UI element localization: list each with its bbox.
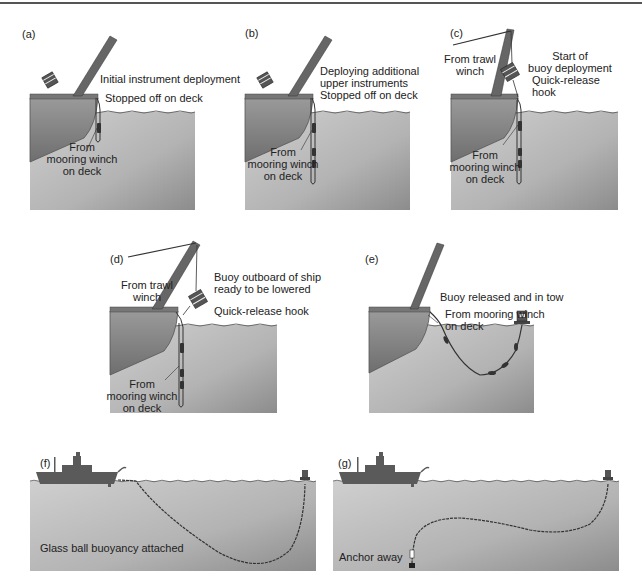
annotation-from-mooring-winch: From mooring winch on deck <box>42 141 122 177</box>
annotation-from-mooring-winch: From mooring winch on deck <box>245 146 321 182</box>
annotation-quick-release-hook: Quick-release hook <box>532 74 600 98</box>
buoy-on-deck-icon <box>42 72 58 88</box>
water <box>30 481 316 571</box>
panel-d: (d) From trawl winch Buoy outboard of sh… <box>100 215 340 410</box>
annotation-from-mooring-winch: From mooring winch on deck <box>102 378 182 414</box>
panel-label: (g) <box>338 457 351 469</box>
a-frame <box>410 243 444 309</box>
caption-glass-ball-buoyancy: Glass ball buoyancy attached <box>40 542 184 554</box>
annotation-start-buoy-deployment: Start of buoy deployment <box>525 50 615 74</box>
ship-deck <box>451 94 518 99</box>
panel-label: (e) <box>365 253 378 265</box>
instrument-icon <box>97 123 101 133</box>
panel-label: (c) <box>450 27 463 39</box>
panel-e: (e) Buoy released and in tow From moorin… <box>330 215 570 410</box>
annotation-from-trawl-winch: From trawl winch <box>114 279 180 303</box>
panel-c: (c) From trawl winch Start of buoy deplo… <box>425 0 642 215</box>
a-frame <box>73 36 117 96</box>
ship-deck <box>369 307 430 312</box>
buoy-on-deck-icon <box>257 72 273 88</box>
instrument-icon <box>518 121 522 131</box>
ship-deck <box>110 307 178 312</box>
annotation-from-trawl-winch: From trawl winch <box>435 53 505 77</box>
annotation-stopped-off: Stopped off on deck <box>105 92 203 104</box>
quick-release-hook-icon <box>183 306 190 315</box>
instrument-icon <box>514 343 518 351</box>
annotation-from-mooring-winch: From mooring winch on deck <box>445 308 545 332</box>
ship-deck <box>245 94 313 99</box>
annotation-deploying-upper: Deploying additional upper instruments S… <box>320 65 419 101</box>
research-ship-icon <box>339 452 429 487</box>
panel-label: (b) <box>245 27 258 39</box>
panel-g: (g) Anchor away <box>320 440 642 587</box>
annotation-buoy-released: Buoy released and in tow <box>440 291 564 303</box>
surface-buoy-icon <box>300 470 310 480</box>
panel-f: (f) Glass ball buoyancy attached <box>0 440 330 587</box>
instrument-icon <box>312 123 316 133</box>
instrument-icon <box>180 343 184 353</box>
instrument-icon <box>488 371 496 375</box>
panel-b: (b) Deploying additional upper instrumen… <box>215 0 430 215</box>
ship-deck <box>30 94 98 99</box>
panel-g-drawing <box>320 440 642 587</box>
annotation-from-mooring-winch: From mooring winch on deck <box>447 149 523 185</box>
caption-anchor-away: Anchor away <box>339 551 403 563</box>
instrument-icon <box>180 369 184 377</box>
panel-label: (d) <box>110 253 123 265</box>
instrument-icon <box>410 550 414 558</box>
panel-label: (f) <box>40 457 50 469</box>
panel-a: (a) Initial instrument deployment Stoppe… <box>0 0 215 215</box>
buoy-hanging-icon <box>188 289 207 308</box>
annotation-quick-release-hook: Quick-release hook <box>214 305 309 317</box>
anchor-icon <box>409 563 415 568</box>
panel-label: (a) <box>22 28 35 40</box>
annotation-buoy-outboard: Buoy outboard of ship ready to be lowere… <box>214 271 321 295</box>
surface-buoy-icon <box>603 470 613 480</box>
